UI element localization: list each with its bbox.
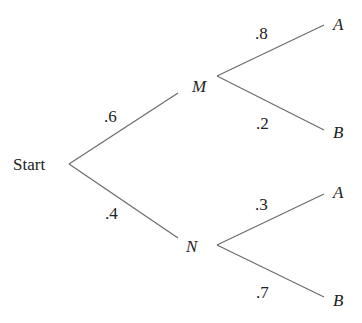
node-n-a: A: [333, 184, 343, 201]
edge-n-b: [217, 245, 324, 297]
node-start: Start: [13, 156, 45, 173]
prob-m-b: .2: [256, 115, 269, 132]
node-n: N: [186, 238, 197, 255]
edge-n-a: [217, 194, 324, 245]
edge-m-b: [217, 76, 324, 130]
prob-m-a: .8: [255, 25, 268, 42]
prob-n-a: .3: [255, 196, 268, 213]
prob-start-m: .6: [104, 108, 117, 125]
edge-start-n: [69, 164, 178, 238]
node-n-b: B: [333, 292, 343, 309]
prob-n-b: .7: [256, 284, 269, 301]
node-m-a: A: [333, 16, 343, 33]
node-m-b: B: [333, 124, 343, 141]
node-m: M: [192, 78, 206, 95]
edge-m-a: [217, 25, 324, 76]
tree-edges: [0, 0, 362, 323]
prob-start-n: .4: [105, 205, 118, 222]
edge-start-m: [69, 93, 178, 164]
